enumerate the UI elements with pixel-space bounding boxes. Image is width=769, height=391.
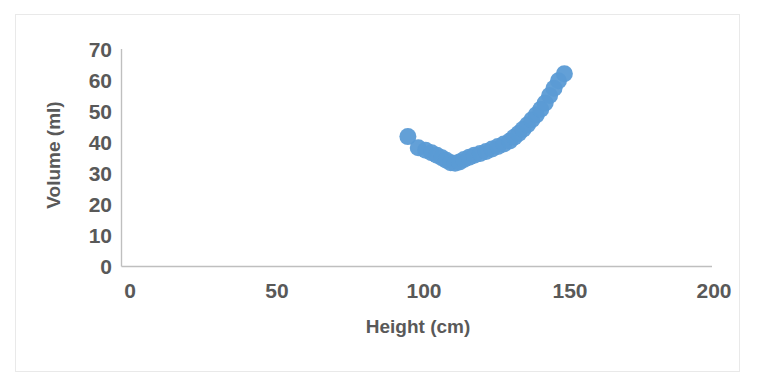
data-point [556, 65, 573, 82]
scatter-chart: 70 60 50 40 30 20 10 0 0 50 100 150 200 … [0, 0, 769, 391]
chart-screenshot: 70 60 50 40 30 20 10 0 0 50 100 150 200 … [0, 0, 769, 391]
y-tick-label: 60 [89, 69, 112, 92]
y-tick-label: 0 [100, 255, 112, 278]
y-axis-title: Volume (ml) [43, 101, 64, 208]
y-tick-label: 10 [89, 224, 112, 247]
x-axis-title: Height (cm) [366, 316, 471, 337]
y-tick-label: 30 [89, 162, 112, 185]
y-tick-label: 50 [89, 100, 112, 123]
x-tick-label: 200 [696, 279, 731, 302]
y-tick-label: 40 [89, 131, 112, 154]
x-tick-label: 0 [124, 279, 136, 302]
x-tick-label: 150 [552, 279, 587, 302]
x-tick-label: 100 [406, 279, 441, 302]
y-tick-label: 20 [89, 193, 112, 216]
x-tick-labels: 0 50 100 150 200 [124, 279, 731, 302]
y-tick-label: 70 [89, 38, 112, 61]
data-series [399, 65, 572, 171]
y-tick-labels: 70 60 50 40 30 20 10 0 [89, 38, 112, 278]
x-tick-label: 50 [265, 279, 288, 302]
